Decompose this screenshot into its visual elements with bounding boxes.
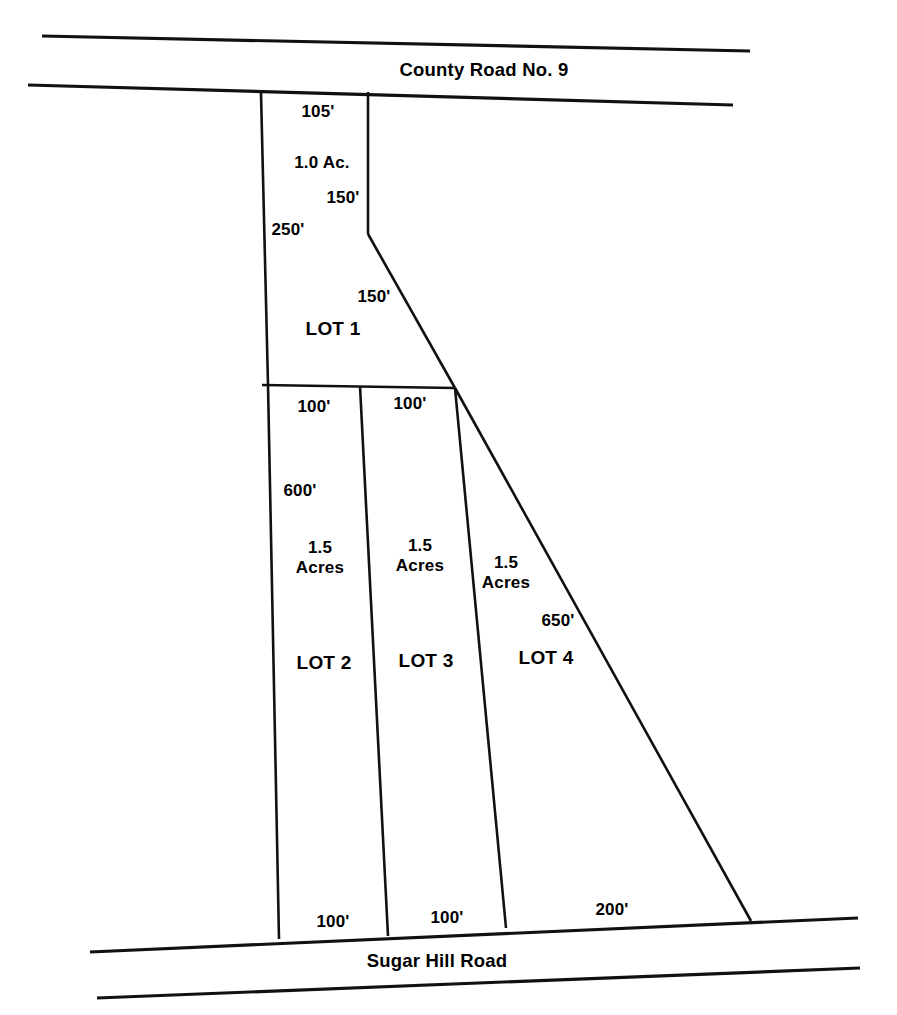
lot-1-south-line	[262, 385, 455, 388]
lot-2-west-dimension: 600'	[283, 481, 316, 501]
lot-2-area-unit: Acres	[296, 558, 344, 578]
lot-3-area-value: 1.5	[396, 536, 444, 556]
lot-3-area-unit: Acres	[396, 556, 444, 576]
lot-1-frontage-dimension: 105'	[301, 102, 334, 122]
lot-3-lot-4-divider-line	[455, 388, 506, 928]
lot-4-area-label: 1.5 Acres	[482, 553, 530, 593]
plat-map-canvas: County Road No. 9 Sugar Hill Road 105' 1…	[0, 0, 897, 1015]
lot-3-south-dimension: 100'	[430, 908, 463, 928]
lot-2-lot-3-divider-line	[360, 386, 388, 936]
lot-1-east-diagonal-line	[368, 234, 455, 388]
lot-2-north-dimension: 100'	[297, 397, 330, 417]
lot-2-south-dimension: 100'	[316, 912, 349, 932]
county-road-lower-edge	[28, 85, 733, 105]
lot-1-southeast-dimension: 150'	[357, 287, 390, 307]
lot-4-label: LOT 4	[519, 647, 574, 669]
lot-4-area-value: 1.5	[482, 553, 530, 573]
lot-2-area-value: 1.5	[296, 538, 344, 558]
lot-1-label: LOT 1	[306, 318, 361, 340]
lot-3-label: LOT 3	[399, 650, 454, 672]
lot-4-area-unit: Acres	[482, 573, 530, 593]
sugar-hill-road-lower-edge	[97, 968, 860, 998]
lot-1-west-dimension: 250'	[271, 220, 304, 240]
lot-3-north-dimension: 100'	[393, 394, 426, 414]
county-road-label: County Road No. 9	[400, 59, 569, 81]
lot-2-area-label: 1.5 Acres	[296, 538, 344, 578]
lot-4-east-dimension: 650'	[541, 611, 574, 631]
plat-drawing	[0, 0, 897, 1015]
lot-4-south-dimension: 200'	[595, 900, 628, 920]
lot-3-area-label: 1.5 Acres	[396, 536, 444, 576]
sugar-hill-road-label: Sugar Hill Road	[367, 950, 508, 972]
lot-1-area-label: 1.0 Ac.	[294, 153, 350, 173]
lot-2-label: LOT 2	[297, 652, 352, 674]
east-boundary-line	[455, 388, 751, 921]
county-road-upper-edge	[42, 36, 750, 51]
lot-1-east-upper-dimension: 150'	[326, 188, 359, 208]
sugar-hill-road-upper-edge	[90, 918, 858, 952]
